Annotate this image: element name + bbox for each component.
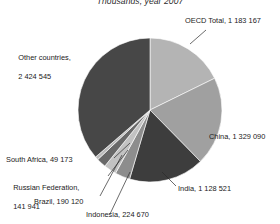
slice-label-other-countries: Other countries, 2 424 545 — [10, 44, 71, 90]
slice-label-india: India, 1 128 521 — [178, 184, 231, 193]
slice-label-other-countries-line1: Other countries, — [18, 53, 71, 62]
slice-label-brazil: Brazil, 190 120 — [34, 197, 83, 206]
pie-slices-group — [78, 38, 222, 182]
pie-chart-figure: Thousands, year 2007 Other countries, 2 … — [0, 0, 280, 224]
slice-label-oecd-total: OECD Total, 1 183 167 — [185, 16, 261, 25]
slice-label-indonesia: Indonesia, 224 670 — [86, 210, 149, 219]
leader-line-indonesia — [110, 172, 130, 214]
slice-label-south-africa: South Africa, 49 173 — [6, 155, 73, 164]
slice-label-china: China, 1 329 090 — [209, 132, 265, 141]
leader-line-oecd-total — [190, 30, 206, 44]
slice-label-other-countries-line2: 2 424 545 — [18, 72, 51, 81]
slice-label-russian-federation-line1: Russian Federation, — [13, 183, 79, 192]
